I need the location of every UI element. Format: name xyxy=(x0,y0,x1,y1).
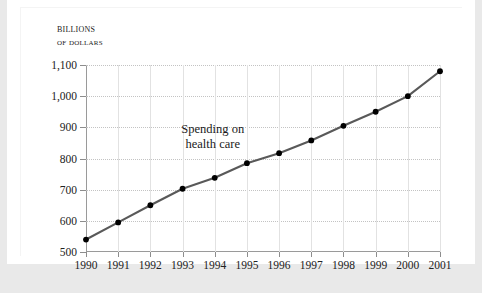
y-axis-title-line2: of dollars xyxy=(57,35,103,48)
annotation-line1: Spending on xyxy=(181,122,244,136)
y-axis-label: 600 xyxy=(60,215,77,227)
figure-card: Billions of dollars 5006007008009001,000… xyxy=(8,0,474,263)
annotation-line2: health care xyxy=(185,137,239,151)
x-axis-tick xyxy=(183,252,184,257)
x-axis-label: 1997 xyxy=(300,259,323,271)
x-axis-tick xyxy=(440,252,441,257)
y-axis-label: 800 xyxy=(60,153,77,165)
x-axis-label: 1999 xyxy=(364,259,387,271)
data-point-marker xyxy=(115,219,121,225)
x-axis-tick xyxy=(118,252,119,257)
data-point-marker xyxy=(83,237,89,243)
data-point-marker xyxy=(244,160,250,166)
y-axis-title: Billions of dollars xyxy=(57,22,103,48)
y-axis-label: 700 xyxy=(60,184,77,196)
data-point-marker xyxy=(147,202,153,208)
data-point-marker xyxy=(308,138,314,144)
data-point-marker xyxy=(212,175,218,181)
y-axis-title-line1: Billions xyxy=(57,22,103,35)
x-axis-tick xyxy=(279,252,280,257)
x-axis-label: 1992 xyxy=(139,259,162,271)
series-line-health-care xyxy=(86,65,440,252)
x-axis-tick xyxy=(247,252,248,257)
data-point-marker xyxy=(437,68,443,74)
y-axis-label: 900 xyxy=(60,121,77,133)
x-axis-label: 1996 xyxy=(268,259,291,271)
x-axis-label: 1995 xyxy=(235,259,258,271)
y-axis-label: 1,000 xyxy=(51,90,77,102)
x-axis-label: 2000 xyxy=(396,259,419,271)
x-axis-tick xyxy=(86,252,87,257)
data-point-marker xyxy=(180,186,186,192)
x-axis-tick xyxy=(150,252,151,257)
x-axis-tick xyxy=(343,252,344,257)
x-axis-label: 1994 xyxy=(203,259,226,271)
x-axis-label: 1998 xyxy=(332,259,355,271)
data-point-marker xyxy=(276,150,282,156)
y-axis-label: 1,100 xyxy=(51,59,77,71)
data-point-marker xyxy=(405,93,411,99)
x-axis-label: 2001 xyxy=(429,259,452,271)
data-point-marker xyxy=(341,123,347,129)
x-axis-tick xyxy=(408,252,409,257)
data-point-marker xyxy=(373,109,379,115)
x-axis-tick xyxy=(376,252,377,257)
plot-area: 5006007008009001,0001,100 19901991199219… xyxy=(86,65,440,252)
x-axis-tick xyxy=(311,252,312,257)
chart-annotation: Spending on health care xyxy=(181,122,244,152)
page-root: Billions of dollars 5006007008009001,000… xyxy=(0,0,482,293)
x-axis-label: 1993 xyxy=(171,259,194,271)
x-axis-label: 1991 xyxy=(107,259,130,271)
x-axis-tick xyxy=(215,252,216,257)
y-axis-label: 500 xyxy=(60,246,77,258)
gridline-vertical xyxy=(440,65,441,252)
series-polyline xyxy=(86,71,440,239)
x-axis-label: 1990 xyxy=(75,259,98,271)
